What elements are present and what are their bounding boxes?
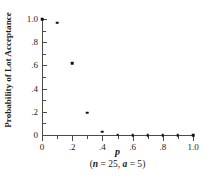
y-tick-label: 0 [34,130,39,140]
y-tick-label: .6 [31,60,38,70]
y-axis-title: Probability of Lot Acceptance [3,12,13,128]
data-point [116,133,119,136]
y-tick [43,100,46,101]
y-tick [43,19,47,20]
y-tick [43,77,46,78]
data-point [71,62,74,65]
x-tick [87,136,88,139]
data-point [101,130,104,133]
y-tick [43,89,47,90]
y-tick-label: .8 [31,37,38,47]
data-point [192,134,195,137]
data-point [131,134,134,137]
caption-close-paren: ) [142,159,145,169]
y-tick [43,123,46,124]
y-tick-label: 1.0 [27,14,38,24]
x-axis-title: p [42,146,193,157]
data-point [41,18,44,21]
x-tick [178,136,179,139]
y-tick [43,42,47,43]
data-point [86,111,89,114]
x-axis-caption: p (n = 25, a = 5) [42,146,193,170]
x-tick [42,136,43,141]
data-point [56,22,59,25]
data-point [162,134,165,137]
y-tick [43,31,46,32]
y-tick [43,54,46,55]
caption-a-value: = 5 [127,159,142,169]
x-axis-parameters: (n = 25, a = 5) [42,158,193,170]
x-tick [163,136,164,141]
x-tick [118,136,119,139]
data-point [177,134,180,137]
x-tick [193,136,194,141]
data-point [146,134,149,137]
y-tick [43,65,47,66]
y-tick [43,112,47,113]
x-tick [148,136,149,139]
x-tick [72,136,73,141]
y-tick-label: .2 [31,107,38,117]
x-tick [57,136,58,139]
y-axis-title-container: Probability of Lot Acceptance [0,0,16,140]
y-tick [43,135,47,136]
oc-curve-figure: Probability of Lot Acceptance 0.2.4.6.81… [0,0,210,192]
y-tick-label: .4 [31,84,38,94]
plot-area: 0.2.4.6.81.0 0.2.4.6.81.0 [42,19,193,135]
x-tick [133,136,134,141]
x-tick [102,136,103,141]
caption-n-value: = 25, [98,159,122,169]
